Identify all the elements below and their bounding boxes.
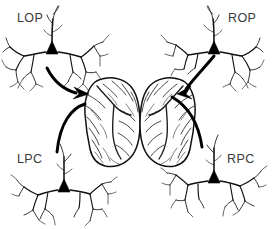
diagram-canvas: LOP ROP LPC RPC (0, 0, 276, 229)
label-rpc: RPC (227, 152, 255, 166)
label-rop: ROP (228, 11, 256, 25)
label-lpc: LPC (17, 152, 43, 166)
label-lop: LOP (17, 11, 43, 25)
neuroanatomy-diagram: LOP ROP LPC RPC (0, 0, 276, 229)
left-brain-hemisphere (85, 78, 140, 167)
